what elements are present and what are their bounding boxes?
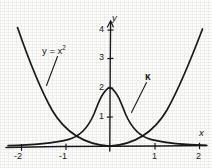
y-tick-label-1: 1 (99, 112, 104, 121)
parabola-curve-label: y = x2 (42, 45, 66, 56)
x-axis-label: x (199, 128, 204, 138)
parabola-curve-label-text: y = x (42, 45, 62, 56)
graph-figure: y x 1 2 3 4 -2 -1 1 2 y = x2 κ (0, 0, 212, 168)
x-tick-label-pos1: 1 (152, 152, 157, 161)
y-axis-label: y (112, 13, 117, 23)
x-tick-label-neg2: -2 (14, 152, 22, 161)
y-tick-label-3: 3 (99, 53, 104, 62)
x-tick-label-pos2: 2 (196, 152, 201, 161)
graph-canvas (0, 0, 212, 168)
kappa-leader-line (132, 83, 147, 113)
kappa-curve-label: κ (145, 72, 151, 82)
y-tick-label-2: 2 (99, 83, 104, 92)
parabola-curve-label-exponent: 2 (62, 44, 66, 51)
y-axis (107, 21, 113, 151)
y-tick-label-4: 4 (99, 25, 104, 34)
parabola-leader-line (47, 57, 58, 86)
x-tick-label-neg1: -1 (59, 152, 67, 161)
series-kappa (8, 87, 206, 145)
